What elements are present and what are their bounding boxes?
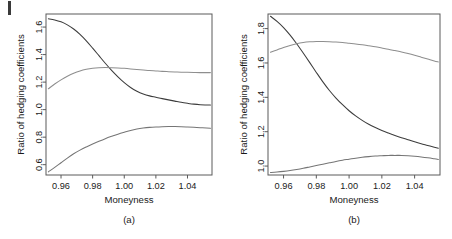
- y-tick-label: 1.2: [34, 76, 44, 89]
- x-tick-label: 1.00: [340, 181, 358, 191]
- x-tick-label: 1.00: [115, 181, 133, 191]
- x-tick-label: 1.04: [179, 181, 197, 191]
- x-tick-label: 1.02: [373, 181, 391, 191]
- y-tick-label: 1.8: [256, 22, 266, 35]
- x-axis-title: Moneyness: [329, 194, 378, 205]
- y-tick-label: 0.6: [34, 158, 44, 171]
- panel-a-chart: 0.960.981.001.021.040.60.81.01.21.41.6Mo…: [0, 0, 226, 239]
- x-tick-label: 0.98: [84, 181, 102, 191]
- series-estimate: [48, 19, 210, 105]
- y-tick-label: 1.2: [256, 125, 266, 138]
- plot-frame: [46, 14, 212, 175]
- panel-b-chart: 0.960.981.001.021.041.01.21.41.61.8Money…: [226, 0, 452, 239]
- y-axis-title: Ratio of hedging coefficients: [238, 34, 249, 155]
- series-lower-band: [48, 127, 210, 172]
- x-tick-label: 0.96: [275, 181, 293, 191]
- panel-caption: (b): [348, 214, 360, 225]
- y-tick-label: 0.8: [34, 131, 44, 144]
- x-tick-label: 0.96: [52, 181, 70, 191]
- y-tick-label: 1.4: [34, 48, 44, 61]
- y-tick-label: 1.4: [256, 91, 266, 104]
- y-axis-title: Ratio of hedging coefficients: [15, 34, 26, 155]
- y-tick-label: 1.6: [34, 21, 44, 34]
- series-estimate: [270, 16, 438, 148]
- y-tick-label: 1.0: [256, 160, 266, 173]
- series-upper-band: [48, 68, 210, 89]
- series-upper-band: [270, 41, 438, 61]
- x-tick-label: 0.98: [307, 181, 325, 191]
- x-tick-label: 1.02: [147, 181, 165, 191]
- y-tick-label: 1.0: [34, 103, 44, 116]
- series-lower-band: [270, 155, 438, 172]
- y-tick-label: 1.6: [256, 57, 266, 70]
- figure-container: 0.960.981.001.021.040.60.81.01.21.41.6Mo…: [0, 0, 452, 239]
- x-tick-label: 1.04: [406, 181, 424, 191]
- panel-caption: (a): [123, 214, 135, 225]
- x-axis-title: Moneyness: [104, 194, 153, 205]
- plot-frame: [268, 14, 440, 175]
